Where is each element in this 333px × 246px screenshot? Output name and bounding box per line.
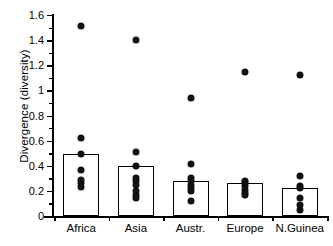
x-tick	[109, 216, 111, 221]
x-tick	[272, 216, 274, 221]
y-tick-label: 0.4	[29, 160, 44, 172]
data-point	[187, 94, 194, 101]
plot-area	[53, 15, 325, 216]
data-point	[296, 173, 303, 180]
x-tick	[54, 216, 56, 221]
y-tick-label: 0.2	[29, 185, 44, 197]
x-tick-label-nguinea: N.Guinea	[275, 222, 324, 234]
data-point	[242, 192, 249, 199]
y-tick-label: 1.4	[29, 34, 44, 46]
y-tick-label: 0.8	[29, 110, 44, 122]
y-tick-label: 1.2	[29, 59, 44, 71]
data-point	[78, 135, 85, 142]
data-point	[296, 194, 303, 201]
y-axis-ticks: 00.20.40.60.811.21.41.6	[0, 14, 52, 217]
data-point	[132, 37, 139, 44]
data-point	[187, 160, 194, 167]
data-point	[132, 163, 139, 170]
y-tick-label: 1	[38, 84, 44, 96]
data-point	[78, 184, 85, 191]
data-point	[187, 197, 194, 204]
data-point	[242, 68, 249, 75]
x-tick-label-europe: Europe	[227, 222, 264, 234]
y-tick-label: 1.6	[29, 9, 44, 21]
data-point	[296, 72, 303, 79]
x-tick	[218, 216, 220, 221]
data-point	[78, 23, 85, 30]
data-point	[296, 185, 303, 192]
x-tick	[163, 216, 165, 221]
x-tick-label-asia: Asia	[125, 222, 147, 234]
data-point	[78, 166, 85, 173]
y-tick-label: 0.6	[29, 135, 44, 147]
data-point	[296, 206, 303, 213]
x-tick-label-africa: Africa	[67, 222, 96, 234]
data-point	[132, 194, 139, 201]
data-point	[187, 187, 194, 194]
chart-figure: Divergence (diversity) 00.20.40.60.811.2…	[0, 0, 333, 246]
data-point	[132, 148, 139, 155]
x-axis-line	[44, 216, 329, 218]
x-tick	[327, 216, 329, 221]
data-point	[78, 151, 85, 158]
x-tick-label-austr: Austr.	[176, 222, 205, 234]
